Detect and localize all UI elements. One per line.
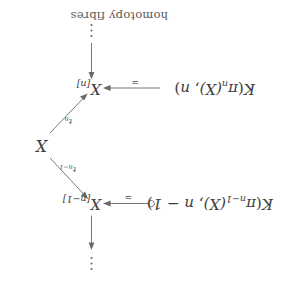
node-k-pi-n-minus-1-ofx: (X) bbox=[204, 195, 226, 213]
arrow-label-equiv-top: ≃ bbox=[124, 193, 132, 202]
arrow-label-t-n: tn bbox=[65, 116, 72, 125]
pi-symbol: π bbox=[246, 195, 256, 213]
node-k-pi-n-comma: , bbox=[190, 80, 200, 98]
node-k-pi-n-minus-1-open: ( bbox=[256, 195, 262, 213]
node-x: X bbox=[36, 137, 47, 153]
node-x-n-base: X bbox=[90, 80, 101, 98]
arrow-label-t-n-minus-1-sub: n−1 bbox=[59, 163, 73, 171]
node-k-pi-n-minus-1: K(πn−1(X), n − 1) bbox=[147, 195, 273, 211]
arrow-up-from-x-n-minus-1 bbox=[89, 216, 95, 251]
rotated-figure-group: K(πn−1(X), n − 1) X[n−1] K(πn(X), n) X[n… bbox=[0, 0, 291, 291]
node-k-pi-n-minus-1-close: ) bbox=[147, 195, 153, 213]
node-k-pi-n: K(πn(X), n) bbox=[174, 80, 255, 96]
node-k-pi-n-minus-1-comma: , bbox=[194, 195, 204, 213]
arrow-up-into-x-n bbox=[89, 43, 95, 80]
ellipsis-bottom bbox=[90, 24, 92, 37]
node-k-pi-n-minus-1-deg: n − 1 bbox=[153, 195, 194, 213]
node-k-pi-n-sub: n bbox=[222, 79, 228, 90]
arrow-label-t-n-base: t bbox=[69, 117, 72, 126]
arrow-label-t-n-sub: n bbox=[65, 115, 69, 123]
node-x-n: X[n] bbox=[77, 80, 101, 96]
annotation-homotopy-fibres: homotopy fibres bbox=[70, 10, 168, 22]
node-x-n-minus-1-base: X bbox=[90, 195, 101, 213]
node-k-pi-n-minus-1-sub: n−1 bbox=[226, 194, 246, 205]
node-k-pi-n-close: ) bbox=[174, 80, 180, 98]
node-k-pi-n-open: ( bbox=[238, 80, 244, 98]
node-k-pi-n-K: K bbox=[244, 80, 255, 98]
arrow-label-t-n-minus-1: tn−1 bbox=[59, 164, 76, 173]
node-k-pi-n-deg: n bbox=[180, 80, 190, 98]
node-x-label: X bbox=[36, 136, 47, 155]
arrow-label-equiv-bottom: ≃ bbox=[131, 78, 139, 87]
pi-symbol: π bbox=[228, 80, 238, 98]
arrow-label-t-n-minus-1-base: t bbox=[73, 165, 76, 174]
ellipsis-top bbox=[90, 257, 92, 270]
arrow-t-n bbox=[50, 94, 88, 134]
node-x-n-minus-1-index: [n−1] bbox=[63, 194, 91, 205]
node-k-pi-n-ofx: (X) bbox=[200, 80, 222, 98]
diagram-canvas: K(πn−1(X), n − 1) X[n−1] K(πn(X), n) X[n… bbox=[0, 0, 291, 291]
node-x-n-index: [n] bbox=[77, 79, 91, 90]
node-x-n-minus-1: X[n−1] bbox=[63, 195, 101, 211]
node-k-pi-n-minus-1-K: K bbox=[262, 195, 273, 213]
